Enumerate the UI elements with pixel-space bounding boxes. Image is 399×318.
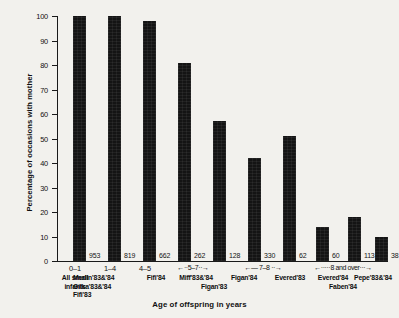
- bar-8: [348, 217, 361, 261]
- y-tick-label-100: 100: [36, 12, 48, 21]
- x-name-1-line3: Fifi'83: [73, 291, 145, 300]
- bar-1: [108, 16, 121, 261]
- x-names-8: Faben'84: [318, 283, 368, 292]
- x-axis-line: [57, 261, 388, 262]
- bar-9: [375, 237, 388, 262]
- y-tick-label-20: 20: [40, 208, 48, 217]
- x-name-4-line1: Figan'83: [186, 283, 242, 292]
- x-name-1-line2: Gilka'83&'84: [73, 283, 145, 292]
- y-axis-title: Percentage of occasions with mother: [25, 43, 34, 243]
- y-tick-label-90: 90: [40, 36, 48, 45]
- x-name-1-line1: Merlin'83&'84: [73, 274, 145, 283]
- bar-3: [178, 63, 191, 261]
- bar-count-1: 819: [124, 252, 135, 259]
- x-names-9: Pepe'83&'84: [347, 274, 399, 283]
- y-tick-label-10: 10: [40, 232, 48, 241]
- bar-count-8: 113: [364, 252, 375, 259]
- bar-count-7: 60: [332, 252, 339, 259]
- bar-4: [213, 121, 226, 261]
- bar-count-6: 62: [299, 252, 306, 259]
- bar-2: [143, 21, 156, 261]
- bar-count-4: 128: [229, 252, 240, 259]
- bar-count-3: 262: [194, 252, 205, 259]
- age-group-5-7: ←··5–7··→: [155, 264, 231, 271]
- x-names-3: Miff'83&'84: [168, 274, 224, 283]
- y-tick-label-50: 50: [40, 134, 48, 143]
- y-tick-label-40: 40: [40, 159, 48, 168]
- bar-7: [316, 227, 329, 261]
- bar-count-5: 330: [264, 252, 275, 259]
- x-names-1: Merlin'83&'84 Gilka'83&'84 Fifi'83: [73, 274, 145, 300]
- x-names-5: Figan'84: [222, 274, 266, 283]
- bar-5: [248, 158, 261, 261]
- y-tick-label-70: 70: [40, 85, 48, 94]
- bar-count-2: 662: [159, 252, 170, 259]
- age-group-8-and-over: ←·····8 and over···→: [288, 264, 398, 271]
- y-tick-label-30: 30: [40, 183, 48, 192]
- bar-chart-figure: Percentage of occasions with mother 100 …: [0, 0, 399, 318]
- bar-count-0: 953: [89, 252, 100, 259]
- plot-area: 953 819 662 262 128 330 62 60 113 38: [58, 16, 388, 261]
- x-name-5-line1: Figan'84: [222, 274, 266, 283]
- x-name-3-line1: Miff'83&'84: [168, 274, 224, 283]
- y-tick-label-80: 80: [40, 61, 48, 70]
- x-name-8-line1: Faben'84: [318, 283, 368, 292]
- bar-count-9: 38: [391, 252, 398, 259]
- bar-6: [283, 136, 296, 261]
- bar-0: [73, 16, 86, 261]
- x-axis-title: Age of offspring in years: [0, 300, 399, 309]
- x-names-4: Figan'83: [186, 283, 242, 292]
- x-name-9-line1: Pepe'83&'84: [347, 274, 399, 283]
- y-tick-label-60: 60: [40, 110, 48, 119]
